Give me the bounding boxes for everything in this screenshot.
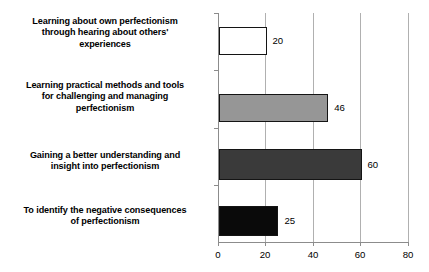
bar-value-1: 46: [334, 102, 345, 113]
category-label-line: Learning about own perfectionism: [2, 16, 208, 27]
bar-value-3: 25: [284, 215, 295, 226]
category-label-line: perfectionism: [2, 103, 208, 114]
category-label-line: experiences: [2, 39, 208, 50]
y-axis-tick-3: [214, 185, 218, 186]
bar-2[interactable]: [219, 149, 362, 180]
category-label-line: Learning practical methods and tools: [2, 80, 208, 91]
x-tick-label-4: 80: [393, 249, 423, 260]
category-label-column: Learning about own perfectionismthrough …: [0, 13, 214, 242]
bar-0[interactable]: [219, 27, 267, 55]
bar-1[interactable]: [219, 94, 328, 122]
gridline-60: [360, 13, 361, 242]
category-label-line: insight into perfectionism: [2, 161, 208, 172]
y-axis-tick-2: [214, 128, 218, 129]
x-tick-label-1: 20: [250, 249, 280, 260]
gridline-80: [408, 13, 409, 242]
plot-area: 0 20 40 60 80 20 46 60 25: [218, 13, 408, 242]
y-axis-tick-top: [214, 13, 218, 14]
bar-value-0: 20: [273, 35, 284, 46]
x-tick-label-2: 40: [298, 249, 328, 260]
bar-value-2: 60: [368, 159, 379, 170]
category-label-line: Gaining a better understanding and: [2, 150, 208, 161]
horizontal-bar-chart: Learning about own perfectionismthrough …: [0, 0, 429, 272]
x-tick-20: [265, 242, 266, 246]
category-label-line: through hearing about others': [2, 27, 208, 38]
x-tick-60: [360, 242, 361, 246]
category-label-3: To identify the negative consequencesof …: [2, 205, 208, 228]
category-label-line: To identify the negative consequences: [2, 205, 208, 216]
x-tick-80: [408, 242, 409, 246]
category-label-1: Learning practical methods and toolsfor …: [2, 80, 208, 114]
x-tick-label-0: 0: [203, 249, 233, 260]
category-label-2: Gaining a better understanding andinsigh…: [2, 150, 208, 173]
x-tick-0: [218, 242, 219, 246]
category-label-line: for challenging and managing: [2, 91, 208, 102]
gridline-40: [313, 13, 314, 242]
y-axis-tick-1: [214, 70, 218, 71]
bar-3[interactable]: [219, 206, 278, 236]
x-tick-40: [313, 242, 314, 246]
category-label-0: Learning about own perfectionismthrough …: [2, 16, 208, 50]
category-label-line: of perfectionism: [2, 216, 208, 227]
x-tick-label-3: 60: [345, 249, 375, 260]
